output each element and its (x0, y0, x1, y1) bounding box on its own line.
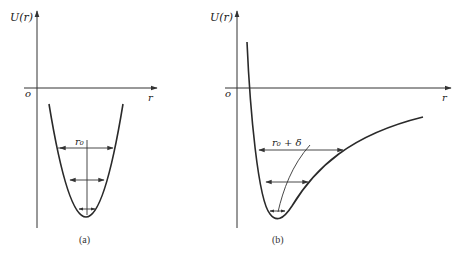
panel-a: U(r) o r r₀ (a) (10, 11, 157, 246)
caption-a: (a) (79, 234, 90, 246)
y-axis-label-b: U(r) (210, 11, 233, 24)
caption-b: (b) (272, 234, 284, 246)
potential-energy-diagram: U(r) o r r₀ (a) U(r) o r r₀ + δ (b) (0, 0, 458, 268)
x-axis-label-a: r (148, 92, 154, 103)
panel-b: U(r) o r r₀ + δ (b) (210, 11, 451, 246)
harmonic-potential-curve (49, 104, 123, 217)
y-axis-label-a: U(r) (10, 11, 33, 24)
r0-label: r₀ (75, 136, 84, 147)
r0-plus-delta-label: r₀ + δ (272, 137, 302, 148)
origin-label-b: o (225, 88, 231, 99)
anharmonic-potential-curve (247, 42, 423, 219)
origin-label-a: o (25, 88, 31, 99)
x-axis-label-b: r (442, 92, 448, 103)
